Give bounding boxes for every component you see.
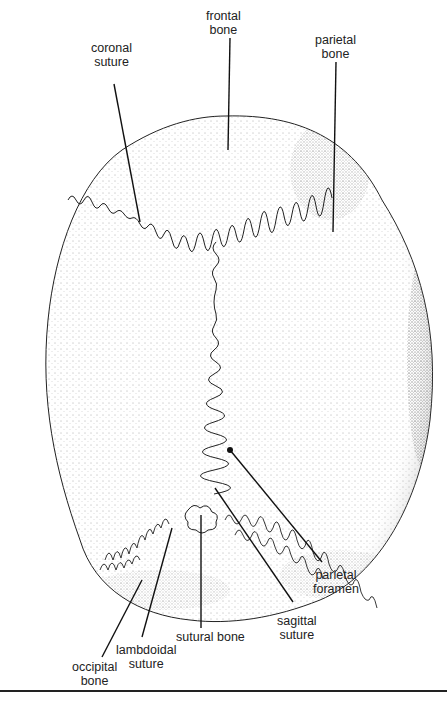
label-sutural-bone: sutural bone [176, 630, 245, 644]
label-parietal-foramen: parietal foramen [313, 568, 359, 596]
label-lambdoidal-suture: lambdoidal suture [116, 643, 176, 671]
label-coronal-suture: coronal suture [91, 41, 132, 69]
skull-superior-view-diagram [0, 0, 447, 701]
bottom-rule [0, 690, 447, 692]
label-parietal-bone: parietal bone [315, 33, 356, 61]
label-frontal-bone: frontal bone [206, 9, 241, 37]
label-occipital-bone: occipital bone [72, 660, 117, 688]
skull-outline [0, 0, 447, 701]
label-sagittal-suture: sagittal suture [277, 614, 317, 642]
